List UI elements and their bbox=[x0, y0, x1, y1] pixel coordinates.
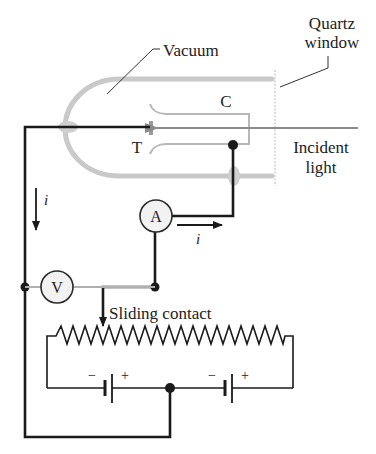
quartz-window-label-line1: Quartz bbox=[309, 14, 356, 33]
battery2-plus-label: + bbox=[241, 368, 249, 383]
collector-label: C bbox=[220, 92, 231, 111]
battery1-minus-label: − bbox=[88, 368, 96, 383]
vacuum-leader-line bbox=[107, 49, 160, 94]
rheostat bbox=[47, 326, 293, 388]
current-label-right: i bbox=[196, 231, 200, 247]
collector-junction bbox=[228, 140, 238, 150]
ammeter-label: A bbox=[150, 208, 162, 225]
quartz-window-label-line2: window bbox=[305, 33, 361, 52]
quartz-leader-line bbox=[280, 56, 328, 87]
incident-light-label-line2: light bbox=[305, 158, 336, 177]
ammeter: A bbox=[140, 200, 172, 232]
photoelectric-circuit-diagram: A V i i − + − + Vacuum Quartz window C T… bbox=[0, 0, 376, 454]
sliding-contact-label: Sliding contact bbox=[109, 304, 212, 323]
battery2-minus-label: − bbox=[208, 368, 216, 383]
battery-center-junction bbox=[165, 383, 175, 393]
current-label-left: i bbox=[44, 192, 48, 208]
target-label: T bbox=[132, 138, 143, 157]
vacuum-label: Vacuum bbox=[163, 41, 219, 60]
incident-light-label-line1: Incident bbox=[293, 138, 349, 157]
voltmeter-label: V bbox=[51, 279, 63, 296]
voltmeter: V bbox=[41, 271, 73, 303]
battery1-plus-label: + bbox=[121, 368, 129, 383]
